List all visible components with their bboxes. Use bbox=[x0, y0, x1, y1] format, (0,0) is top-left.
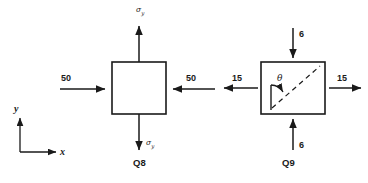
q8-right-load-label: 50 bbox=[186, 74, 196, 83]
stress-element-diagram bbox=[0, 0, 368, 183]
coordinate-axes bbox=[20, 118, 56, 152]
q8-top-sigma-subscript: y bbox=[141, 10, 144, 16]
q8-caption: Q8 bbox=[133, 158, 146, 168]
q8-element-group bbox=[60, 26, 215, 150]
q9-right-load-label: 15 bbox=[337, 74, 347, 83]
figure-canvas: σy σy 50 50 15 15 6 6 θ Q8 Q9 y x bbox=[0, 0, 368, 183]
q8-bottom-sigma-subscript: y bbox=[151, 143, 154, 149]
q8-top-stress-label: σy bbox=[136, 6, 144, 16]
q9-caption: Q9 bbox=[282, 158, 295, 168]
x-axis-label: x bbox=[60, 147, 65, 157]
q9-angle-arc bbox=[271, 85, 283, 92]
q9-element-group bbox=[224, 28, 361, 150]
q8-left-load-label: 50 bbox=[61, 74, 71, 83]
q9-angle-theta-label: θ bbox=[277, 74, 282, 83]
y-axis-label: y bbox=[14, 104, 18, 114]
q9-top-load-label: 6 bbox=[299, 30, 304, 39]
q9-bottom-load-label: 6 bbox=[299, 141, 304, 150]
q8-square bbox=[112, 62, 166, 114]
q8-bottom-stress-label: σy bbox=[146, 139, 154, 149]
q9-left-load-label: 15 bbox=[232, 74, 242, 83]
